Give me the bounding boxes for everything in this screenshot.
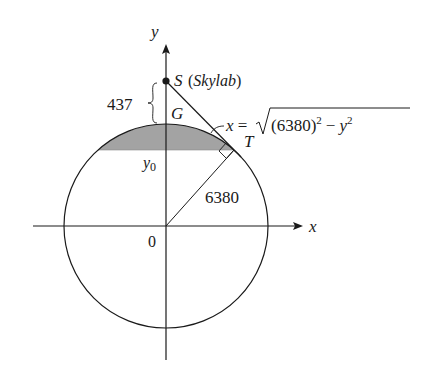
equation-exponent-1: 2	[316, 114, 322, 126]
equation-exponent-2: 2	[347, 114, 353, 126]
equation-minus: −	[326, 116, 336, 135]
satellite-name-text: Skylab	[193, 72, 236, 90]
tangent-equation: x = (6380)2−y2	[225, 108, 410, 135]
equation-y: y	[337, 116, 347, 135]
radius-label: 6380	[205, 188, 239, 207]
cap-level-subscript: 0	[150, 160, 156, 174]
altitude-label: 437	[107, 95, 133, 114]
origin-label: 0	[148, 233, 156, 250]
satellite-label: S	[174, 71, 183, 90]
equation-radicand: (6380)2−y2	[271, 114, 352, 135]
earth-skylab-diagram: y x 0 S (Skylab) 437 G T y0 6380 x = (63…	[0, 0, 424, 370]
satellite-name: (Skylab)	[188, 72, 241, 90]
satellite-point	[162, 77, 169, 84]
ground-point-label: G	[171, 104, 183, 123]
altitude-brace	[148, 83, 157, 123]
equation-leader-line	[211, 126, 224, 133]
x-axis-label: x	[308, 217, 317, 236]
y-axis-label: y	[149, 22, 159, 41]
equation-lhs: x =	[225, 116, 247, 135]
cap-level-label: y0	[141, 154, 156, 174]
equation-base: (6380)	[271, 116, 316, 135]
